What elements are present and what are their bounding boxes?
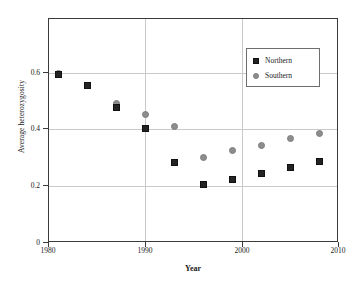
data-point-southern-2005 <box>287 135 294 142</box>
data-point-northern-2002 <box>258 170 265 177</box>
x-tick-label-2000: 2000 <box>222 247 262 255</box>
data-point-northern-1993 <box>171 159 178 166</box>
data-point-northern-1996 <box>200 181 207 188</box>
legend-label-southern: Southern <box>265 72 292 80</box>
data-point-northern-1981 <box>55 71 62 78</box>
data-point-southern-2008 <box>316 130 323 137</box>
gridline-vertical-2000 <box>242 19 243 241</box>
scatter-chart-figure: 0 0.2 0.4 0.6 1980 1990 2000 2010 Averag… <box>0 0 355 284</box>
chart-legend: Northern Southern <box>246 48 320 87</box>
gridline-horizontal-0.2 <box>49 186 337 187</box>
data-point-northern-1990 <box>142 125 149 132</box>
y-tick-label-0.2: 0.2 <box>14 182 40 190</box>
y-tick-mark-0.2 <box>43 185 48 186</box>
y-tick-mark-0.6 <box>43 72 48 73</box>
x-tick-label-1990: 1990 <box>125 247 165 255</box>
y-axis-title: Average heterozygosity <box>17 52 26 182</box>
data-point-southern-1996 <box>200 154 207 161</box>
square-marker-icon <box>253 58 259 64</box>
x-axis-title: Year <box>48 264 338 273</box>
legend-entry-northern: Northern <box>253 53 319 68</box>
y-tick-label-0: 0 <box>14 239 40 247</box>
data-point-southern-2002 <box>258 142 265 149</box>
data-point-northern-2008 <box>316 158 323 165</box>
data-point-northern-1999 <box>229 176 236 183</box>
data-point-northern-2005 <box>287 164 294 171</box>
gridline-horizontal-0.4 <box>49 129 337 130</box>
legend-entry-southern: Southern <box>253 68 319 83</box>
legend-label-northern: Northern <box>265 57 292 65</box>
x-tick-label-1980: 1980 <box>28 247 68 255</box>
data-point-southern-1990 <box>142 111 149 118</box>
data-point-northern-1987 <box>113 104 120 111</box>
circle-marker-icon <box>253 73 259 79</box>
x-tick-label-2010: 2010 <box>318 247 355 255</box>
data-point-southern-1999 <box>229 147 236 154</box>
data-point-northern-1984 <box>84 82 91 89</box>
y-tick-mark-0.4 <box>43 128 48 129</box>
